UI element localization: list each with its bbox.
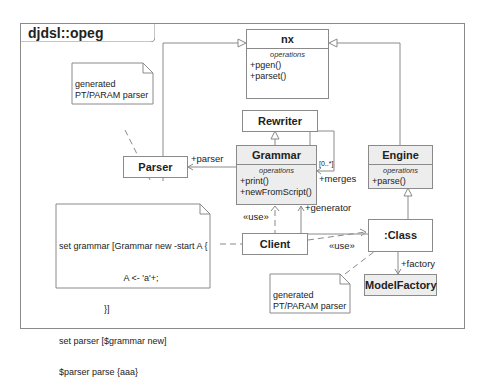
class-name: :Class — [369, 220, 432, 251]
use-client-grammar-label: «use» — [243, 211, 269, 222]
merges-multiplicity: [0..*] — [319, 160, 333, 167]
object-client[interactable]: Client — [242, 233, 308, 255]
class-name: Parser — [124, 157, 187, 177]
class-name: Grammar — [237, 146, 316, 164]
generator-role-label: +generator — [305, 202, 351, 213]
operations-compartment: operations +print() +newFromScript() — [237, 164, 316, 199]
class-name: Client — [243, 234, 307, 254]
operation: +pgen() — [250, 60, 325, 71]
operation: +parse() — [372, 176, 429, 187]
class-grammar[interactable]: Grammar operations +print() +newFromScri… — [236, 145, 317, 205]
operation: +parset() — [250, 71, 325, 82]
class-engine[interactable]: Engine operations +parse() — [368, 145, 433, 189]
operations-compartment: operations +parse() — [369, 164, 432, 188]
code-line: $parser parse {aaa} — [59, 367, 208, 378]
code-line: set grammar [Grammar new -start A { — [59, 241, 208, 252]
code-line: A <- 'a'+; — [59, 273, 208, 284]
code-line: }] — [59, 304, 208, 315]
parser-note: generated PT/PARAM parser — [75, 79, 148, 101]
operation: +print() — [240, 176, 313, 187]
generalization-arrowhead — [238, 39, 246, 47]
use-client-class-label: «use» — [329, 240, 355, 251]
operation: +newFromScript() — [240, 187, 313, 198]
parser-role-label: +parser — [191, 153, 223, 164]
merges-role-label: +merges — [319, 173, 356, 184]
operations-compartment: operations +pgen() +parset() — [247, 48, 328, 83]
class-parser[interactable]: Parser — [123, 156, 188, 178]
code-note: set grammar [Grammar new -start A { A <-… — [59, 220, 208, 381]
class-name: Rewriter — [243, 111, 317, 131]
class-name: ModelFactory — [365, 275, 436, 295]
code-line: set parser [$grammar new] — [59, 336, 208, 347]
class-model-factory[interactable]: ModelFactory — [364, 274, 437, 296]
factory-role-label: +factory — [401, 258, 435, 269]
class-name: nx — [247, 30, 328, 48]
object-class[interactable]: :Class — [368, 219, 433, 252]
class-name: Engine — [369, 146, 432, 164]
class-nx[interactable]: nx operations +pgen() +parset() — [246, 29, 329, 99]
class-rewriter[interactable]: Rewriter — [242, 110, 318, 132]
class-note: generated PT/PARAM parser — [273, 290, 346, 312]
